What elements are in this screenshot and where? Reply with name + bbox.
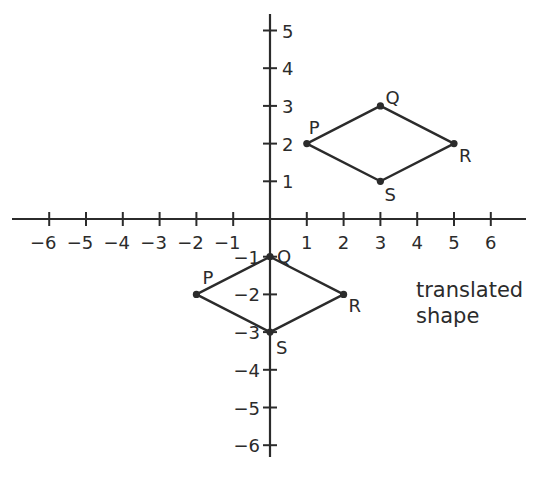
x-tick-label: 5: [448, 232, 459, 253]
vertex-label-s: S: [384, 184, 395, 205]
vertex-label-r: R: [349, 295, 362, 316]
translated-shape-caption-line2: shape: [416, 304, 479, 328]
y-axis-tick-labels: 54321−1−2−3−4−5−6: [233, 21, 293, 457]
y-tick-label: −4: [233, 360, 260, 381]
x-tick-label: 3: [375, 232, 386, 253]
y-tick-label: 2: [282, 134, 293, 155]
vertex-label-r: R: [459, 145, 472, 166]
vertex-label-p: P: [309, 117, 320, 138]
translated-shape-caption-line1: translated: [416, 278, 523, 302]
vertex-point-p: [193, 291, 200, 298]
vertex-point-r: [340, 291, 347, 298]
coordinate-diagram: −6−5−4−3−2−1123456 54321−1−2−3−4−5−6 PQR…: [0, 0, 553, 478]
vertex-point-s: [377, 178, 384, 185]
x-tick-label: −3: [140, 232, 167, 253]
x-axis-tick-labels: −6−5−4−3−2−1123456: [30, 232, 497, 253]
vertex-point-s: [266, 329, 273, 336]
original-shape: [307, 106, 454, 181]
y-tick-label: 1: [282, 171, 293, 192]
y-tick-label: 4: [282, 58, 293, 79]
y-tick-label: −2: [233, 284, 260, 305]
translated-shape-vertices: PQRS: [193, 246, 361, 358]
vertex-label-q: Q: [277, 246, 291, 267]
x-tick-label: 6: [485, 232, 496, 253]
vertex-label-s: S: [276, 337, 287, 358]
vertex-label-q: Q: [385, 87, 399, 108]
x-tick-label: −5: [67, 232, 94, 253]
y-tick-label: −6: [233, 435, 260, 456]
x-tick-label: −6: [30, 232, 57, 253]
y-tick-label: 5: [282, 21, 293, 42]
vertex-point-r: [450, 140, 457, 147]
vertex-label-p: P: [202, 267, 213, 288]
x-tick-label: −2: [177, 232, 204, 253]
x-tick-label: 1: [301, 232, 312, 253]
original-shape-vertices: PQRS: [303, 87, 471, 205]
vertex-point-p: [303, 140, 310, 147]
y-tick-label: −5: [233, 398, 260, 419]
vertex-point-q: [377, 102, 384, 109]
y-tick-label: 3: [282, 96, 293, 117]
x-tick-label: 4: [411, 232, 422, 253]
x-tick-label: 2: [338, 232, 349, 253]
vertex-point-q: [266, 253, 273, 260]
x-tick-label: −4: [104, 232, 131, 253]
